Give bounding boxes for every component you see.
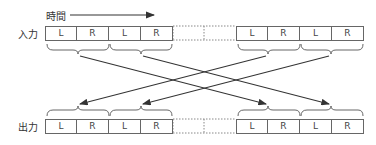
output-gap-dotted [173, 119, 236, 133]
output-cell-r: R [141, 119, 173, 134]
time-label: 時間 [46, 8, 66, 23]
input-cell-l: L [300, 26, 332, 41]
output-cell-r: R [77, 119, 109, 134]
input-braces [47, 44, 363, 54]
output-cell-l: L [236, 119, 268, 134]
output-cell-l: L [109, 119, 141, 134]
output-cell-r: R [332, 119, 364, 134]
input-label: 入力 [18, 26, 38, 41]
input-cell-l: L [45, 26, 77, 41]
input-cell-r: R [77, 26, 109, 41]
input-cell-l: L [236, 26, 268, 41]
output-cell-l: L [45, 119, 77, 134]
input-cell-r: R [268, 26, 300, 41]
input-cell-l: L [109, 26, 141, 41]
output-cell-l: L [300, 119, 332, 134]
output-cell-r: R [268, 119, 300, 134]
mapping-arrows [80, 56, 329, 104]
output-braces [47, 106, 363, 116]
input-cell-r: R [141, 26, 173, 41]
input-cell-r: R [332, 26, 364, 41]
input-gap-dotted [173, 26, 236, 40]
output-label: 出力 [18, 119, 38, 134]
